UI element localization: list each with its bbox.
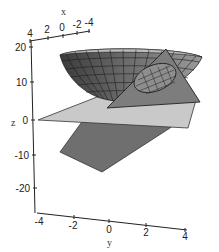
z-tick-minus10: -10 — [15, 150, 30, 161]
x-tick-minus4: -4 — [85, 17, 94, 28]
x-axis-label: x — [61, 6, 66, 17]
y-tick-minus2: -2 — [69, 220, 78, 231]
x-tick-minus2: -2 — [73, 19, 82, 30]
z-tick-20: 20 — [15, 42, 27, 53]
y-axis: -4 -2 0 2 4 y — [35, 213, 189, 248]
z-axis-label: z — [11, 117, 16, 128]
y-tick-0: 0 — [106, 224, 112, 235]
z-tick-0: 0 — [22, 115, 28, 126]
y-tick-minus4: -4 — [35, 216, 44, 227]
x-tick-4: 4 — [27, 28, 33, 39]
y-tick-2: 2 — [143, 227, 149, 238]
z-axis: 20 10 0 -10 -20 z — [11, 40, 37, 213]
3d-plot: 20 10 0 -10 -20 z 4 2 0 -2 -4 x -4 -2 0 … — [0, 0, 219, 252]
z-tick-10: 10 — [16, 77, 28, 88]
x-axis: 4 2 0 -2 -4 x — [27, 6, 94, 43]
z-tick-minus20: -20 — [16, 183, 31, 194]
y-tick-4: 4 — [182, 231, 188, 242]
x-tick-0: 0 — [59, 22, 65, 33]
y-axis-label: y — [107, 237, 112, 248]
x-tick-2: 2 — [44, 24, 50, 35]
